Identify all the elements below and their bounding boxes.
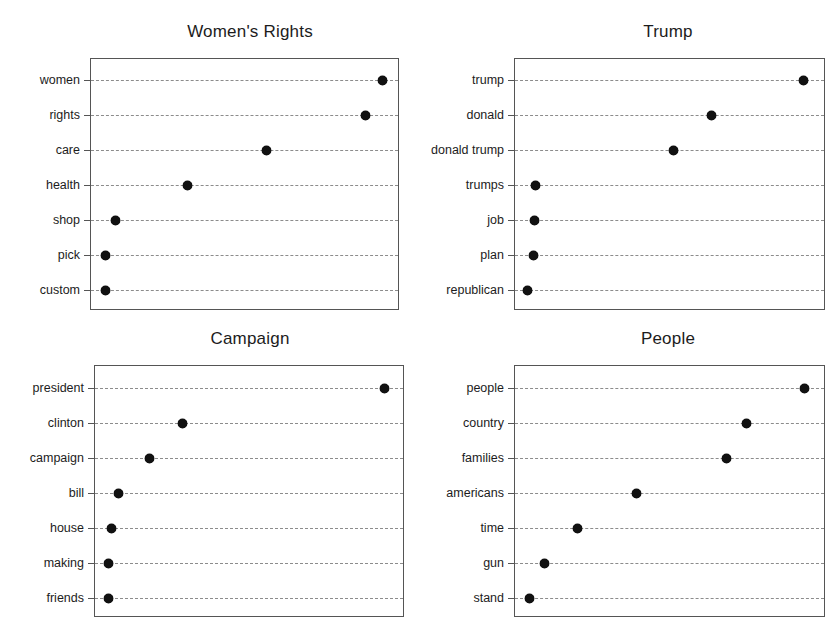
y-axis-tick <box>508 423 514 424</box>
y-axis-tick <box>508 458 514 459</box>
y-axis-tick <box>508 563 514 564</box>
data-point <box>800 384 809 393</box>
data-point <box>540 559 549 568</box>
figure-canvas: Women's Rightswomenrightscarehealthshopp… <box>0 0 839 635</box>
y-axis-tick <box>508 493 514 494</box>
data-point <box>632 489 641 498</box>
gridline <box>515 388 824 389</box>
data-point <box>722 454 731 463</box>
y-axis-tick <box>508 528 514 529</box>
plot-area-people <box>514 365 825 617</box>
gridline <box>515 528 824 529</box>
y-axis-label-country: country <box>264 417 504 430</box>
y-axis-label-gun: gun <box>264 557 504 570</box>
y-axis-label-americans: americans <box>264 487 504 500</box>
gridline <box>515 563 824 564</box>
gridline <box>515 423 824 424</box>
data-point <box>525 594 534 603</box>
gridline <box>515 493 824 494</box>
y-axis-label-families: families <box>264 452 504 465</box>
y-axis-tick <box>508 598 514 599</box>
gridline <box>515 598 824 599</box>
gridline <box>515 458 824 459</box>
y-axis-label-stand: stand <box>264 592 504 605</box>
data-point <box>742 419 751 428</box>
y-axis-label-people: people <box>264 382 504 395</box>
data-point <box>573 524 582 533</box>
y-axis-tick <box>508 388 514 389</box>
panel-title-people: People <box>468 329 839 349</box>
panel-people: Peoplepeoplecountryfamiliesamericanstime… <box>0 0 839 635</box>
y-axis-label-time: time <box>264 522 504 535</box>
